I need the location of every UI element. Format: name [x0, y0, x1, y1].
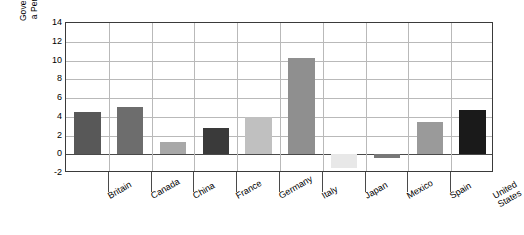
x-axis-tick-label-china: China — [191, 192, 196, 201]
plot-area — [65, 22, 493, 172]
bar-united-states — [459, 110, 486, 154]
y-axis-tick-label: 6 — [57, 93, 62, 102]
bar-canada — [117, 107, 144, 154]
y-axis-tick-label: -2 — [54, 168, 62, 177]
y-axis-tick-label: 14 — [52, 18, 62, 27]
y-axis-title-line-1: Government Deficit as — [18, 0, 29, 21]
bar-japan — [331, 154, 358, 168]
y-axis-tick-label: 10 — [52, 55, 62, 64]
x-axis-tick-label-united-states: UnitedStates — [491, 192, 501, 209]
y-axis-tick-label: 0 — [57, 149, 62, 158]
y-axis-tick-label: 12 — [52, 36, 62, 45]
y-axis-tick-label: 4 — [57, 111, 62, 120]
x-axis-tick-label-spain: Spain — [448, 192, 453, 201]
y-axis-title-line-2: a Percentage of GDP — [29, 0, 40, 19]
bars-group — [66, 23, 492, 171]
y-axis-tick-labels: 14121086420-2 — [44, 22, 62, 172]
x-axis-tick-label-italy: Italy — [320, 192, 325, 201]
bar-spain — [417, 122, 444, 154]
bar-mexico — [374, 154, 401, 157]
x-axis-tick-label-canada: Canada — [149, 192, 154, 201]
x-axis-tick-label-germany: Germany — [277, 192, 282, 201]
bar-germany — [245, 117, 272, 155]
x-axis-tick-label-mexico: Mexico — [405, 192, 410, 201]
x-axis-tick-label-japan: Japan — [363, 192, 368, 201]
y-axis-tick-label: 2 — [57, 130, 62, 139]
x-axis-tick-labels: BritainCanadaChinaFranceGermanyItalyJapa… — [65, 192, 493, 235]
bar-britain — [74, 112, 101, 154]
bar-italy — [288, 58, 315, 155]
bar-china — [160, 142, 187, 154]
bar-france — [203, 128, 230, 155]
x-axis-tick-label-britain: Britain — [106, 192, 111, 201]
x-axis-tick-label-line: States — [496, 201, 501, 210]
y-axis-tick-label: 8 — [57, 74, 62, 83]
x-axis-tick-label-france: France — [234, 192, 239, 201]
